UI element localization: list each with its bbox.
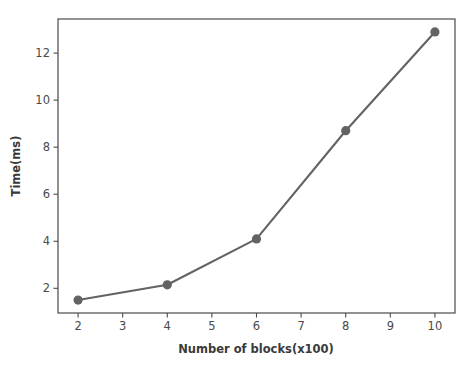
plot-area-background [58, 19, 455, 313]
y-tick-label: 4 [43, 234, 50, 248]
x-tick-label: 5 [208, 319, 215, 333]
y-tick-label: 10 [35, 93, 50, 107]
chart-figure: 2345678910 24681012 Number of blocks(x10… [0, 0, 475, 371]
data-point-marker [163, 280, 172, 289]
y-axis-label: Time(ms) [9, 136, 23, 197]
data-point-marker [73, 295, 82, 304]
x-tick-label: 9 [387, 319, 394, 333]
x-tick-label: 2 [74, 319, 81, 333]
x-tick-label: 7 [297, 319, 304, 333]
x-tick-label: 8 [342, 319, 349, 333]
y-tick-label: 2 [43, 281, 50, 295]
y-tick-label: 8 [43, 140, 50, 154]
data-point-marker [252, 234, 261, 243]
x-tick-label: 6 [253, 319, 260, 333]
x-tick-label: 4 [164, 319, 171, 333]
data-point-marker [430, 27, 439, 36]
x-tick-label: 3 [119, 319, 126, 333]
x-tick-label: 10 [428, 319, 443, 333]
y-tick-label: 6 [43, 187, 50, 201]
line-chart: 2345678910 24681012 Number of blocks(x10… [0, 0, 475, 371]
x-axis-label: Number of blocks(x100) [178, 342, 334, 356]
data-point-marker [341, 126, 350, 135]
y-tick-label: 12 [35, 46, 50, 60]
